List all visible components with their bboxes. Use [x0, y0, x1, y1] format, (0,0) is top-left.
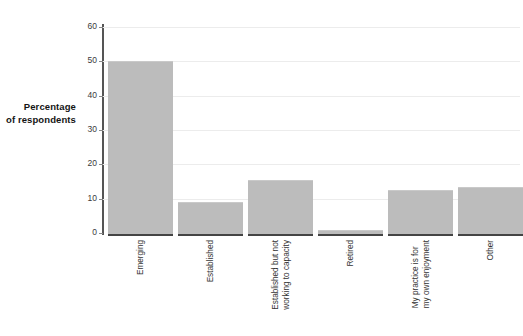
- x-tick-label-slot: Established: [178, 240, 243, 332]
- y-axis-title-line-1: Percentage: [24, 101, 76, 112]
- y-tick-label-30: 30: [75, 125, 97, 134]
- x-tick-label-slot: Emerging: [108, 240, 173, 332]
- y-tick-mark-60: [99, 27, 103, 28]
- x-tick-label: Emerging: [135, 240, 146, 275]
- x-tick-label-line: Emerging: [135, 240, 144, 275]
- x-tick-label-line: Established: [205, 240, 214, 282]
- y-tick-label-50: 50: [75, 56, 97, 65]
- x-axis-segment: [108, 234, 173, 236]
- y-tick-mark-50: [99, 61, 103, 62]
- x-axis-segment: [318, 234, 383, 236]
- x-tick-label-line: Other: [485, 240, 494, 260]
- x-tick-label-slot: My practice is formy own enjoyment: [388, 240, 453, 332]
- x-axis-segment: [388, 234, 453, 236]
- y-tick-label-40: 40: [75, 91, 97, 100]
- x-tick-label-line: My practice is for: [410, 246, 419, 308]
- y-tick-label-10: 10: [75, 194, 97, 203]
- x-tick-label-line: Retired: [345, 240, 354, 266]
- y-tick-label-60: 60: [75, 22, 97, 31]
- bar: [388, 190, 453, 234]
- x-tick-label-line: my own enjoyment: [421, 240, 432, 308]
- bar: [178, 202, 243, 234]
- x-axis-segment: [248, 234, 313, 236]
- y-axis-title: Percentage of respondents: [2, 100, 76, 126]
- bar: [248, 180, 313, 234]
- bar: [458, 187, 523, 234]
- y-tick-mark-40: [99, 96, 103, 97]
- x-axis-segment: [178, 234, 243, 236]
- y-tick-mark-30: [99, 130, 103, 131]
- x-tick-label-slot: Other: [458, 240, 523, 332]
- y-tick-mark-0: [99, 233, 103, 234]
- x-tick-label: My practice is formy own enjoyment: [410, 240, 431, 308]
- x-tick-label: Established: [205, 240, 216, 282]
- x-tick-label-line: working to capacity: [281, 240, 292, 310]
- x-tick-label: Other: [485, 240, 496, 260]
- y-tick-mark-20: [99, 164, 103, 165]
- x-tick-label-slot: Established but notworking to capacity: [248, 240, 313, 332]
- y-tick-label-20: 20: [75, 159, 97, 168]
- x-tick-label-line: Established but not: [270, 240, 279, 310]
- x-axis-segment: [458, 234, 523, 236]
- y-axis-title-line-2: of respondents: [6, 114, 76, 125]
- y-tick-mark-10: [99, 199, 103, 200]
- x-tick-label: Established but notworking to capacity: [270, 240, 291, 310]
- x-tick-label-slot: Retired: [318, 240, 383, 332]
- x-tick-label: Retired: [345, 240, 356, 266]
- y-tick-label-0: 0: [75, 228, 97, 237]
- bar-chart: Percentage of respondents 0102030405060 …: [0, 0, 523, 336]
- bar: [108, 61, 173, 234]
- gridline-60: [103, 27, 520, 28]
